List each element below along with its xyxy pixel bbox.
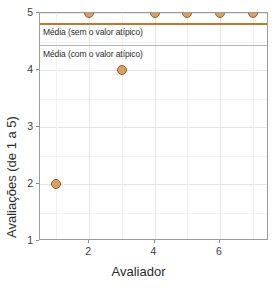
- scatter-chart: Média (sem o valor atípico)Média (com o …: [0, 0, 277, 292]
- x-tick-label: 2: [78, 245, 98, 257]
- data-point: [248, 12, 258, 18]
- data-point: [51, 179, 61, 189]
- y-tick-mark: [36, 183, 39, 184]
- x-tick-label: 6: [209, 245, 229, 257]
- y-tick-label: 5: [9, 6, 33, 18]
- gridline: [122, 13, 123, 239]
- x-tick-mark: [154, 240, 155, 243]
- gridline: [155, 13, 156, 239]
- x-axis-title: Avaliador: [0, 264, 277, 279]
- gridline: [40, 156, 267, 157]
- data-point: [182, 12, 192, 18]
- gridline: [40, 127, 267, 128]
- gridline: [40, 213, 267, 214]
- gridline: [40, 99, 267, 100]
- reference-line-without-outlier: [40, 23, 267, 25]
- data-point: [150, 12, 160, 18]
- reference-label-with-outlier: Média (com o valor atípico): [43, 49, 143, 59]
- y-tick-mark: [36, 69, 39, 70]
- gridline: [40, 42, 267, 43]
- data-point: [84, 12, 94, 18]
- gridline: [220, 13, 221, 239]
- data-point: [215, 12, 225, 18]
- y-tick-mark: [36, 12, 39, 13]
- gridline: [89, 13, 90, 239]
- x-tick-label: 4: [144, 245, 164, 257]
- gridline: [40, 184, 267, 185]
- gridline: [56, 13, 57, 239]
- gridline: [40, 70, 267, 71]
- y-axis-title: Avaliações (de 1 a 5): [4, 116, 19, 238]
- reference-line-with-outlier: [40, 45, 267, 46]
- gridline: [187, 13, 188, 239]
- x-tick-mark: [219, 240, 220, 243]
- reference-label-without-outlier: Média (sem o valor atípico): [43, 27, 143, 37]
- y-tick-mark: [36, 126, 39, 127]
- y-tick-mark: [36, 240, 39, 241]
- gridline: [253, 13, 254, 239]
- x-tick-mark: [88, 240, 89, 243]
- y-tick-label: 4: [9, 63, 33, 75]
- plot-panel: Média (sem o valor atípico)Média (com o …: [39, 12, 268, 240]
- data-point: [117, 65, 127, 75]
